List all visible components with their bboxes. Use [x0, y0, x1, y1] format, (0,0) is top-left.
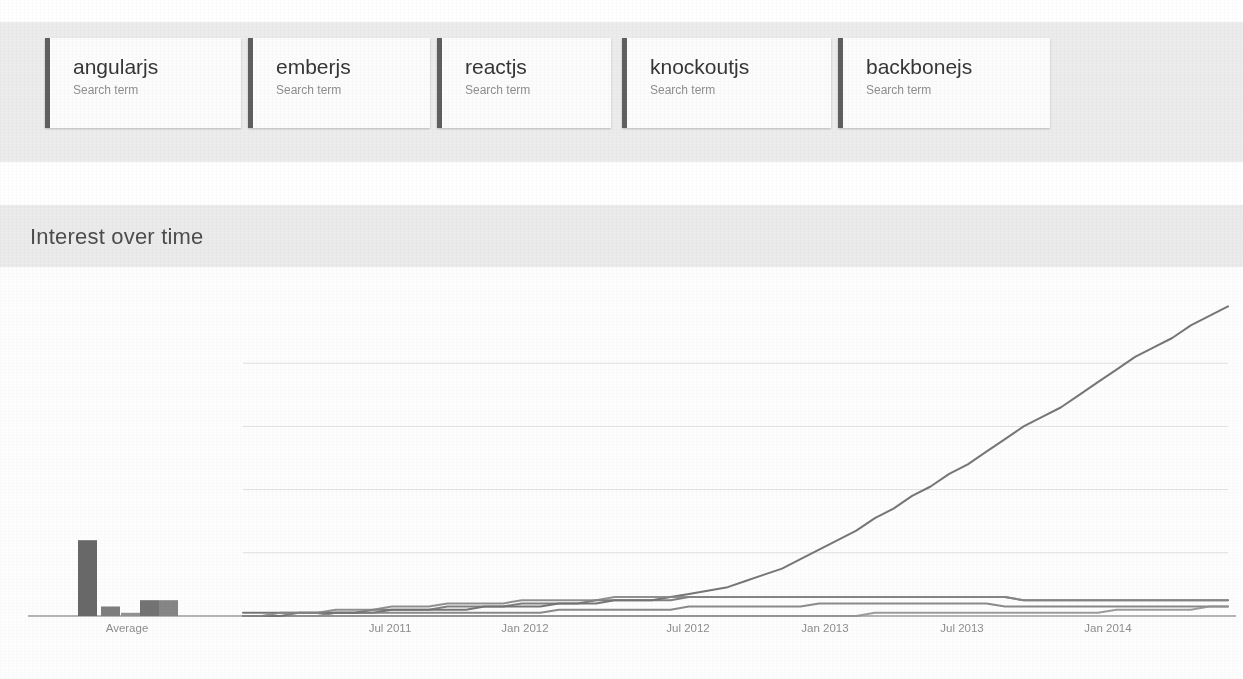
x-axis-tick-label: Jul 2013: [940, 622, 983, 634]
search-term-label: angularjs: [73, 54, 158, 79]
x-axis-tick-label: Jan 2014: [1084, 622, 1131, 634]
x-axis-tick-label: Jan 2013: [801, 622, 848, 634]
search-term-text: reactjsSearch term: [442, 38, 540, 99]
average-bar[interactable]: [121, 613, 140, 616]
chart-line-reactjs[interactable]: [243, 607, 1228, 617]
search-term-label: reactjs: [465, 54, 530, 79]
search-term-subtitle: Search term: [650, 82, 749, 99]
search-term-card[interactable]: reactjsSearch term: [437, 38, 611, 128]
search-term-label: knockoutjs: [650, 54, 749, 79]
search-term-card[interactable]: angularjsSearch term: [45, 38, 241, 128]
interest-over-time-chart[interactable]: [0, 267, 1243, 679]
x-axis-tick-label: Jul 2012: [666, 622, 709, 634]
search-term-card[interactable]: knockoutjsSearch term: [622, 38, 831, 128]
search-term-text: knockoutjsSearch term: [627, 38, 759, 99]
search-term-subtitle: Search term: [276, 82, 351, 99]
average-bar[interactable]: [159, 600, 178, 616]
chart-x-axis-labels: AverageJul 2011Jan 2012Jul 2012Jan 2013J…: [0, 622, 1243, 644]
search-term-label: emberjs: [276, 54, 351, 79]
section-title: Interest over time: [30, 224, 204, 250]
search-term-card[interactable]: backbonejsSearch term: [838, 38, 1050, 128]
search-term-subtitle: Search term: [465, 82, 530, 99]
chart-canvas[interactable]: [0, 267, 1243, 679]
scanned-page: of notes byand illustrationsDesign 1. Vi…: [0, 0, 1243, 679]
x-axis-tick-label: Jul 2011: [369, 622, 412, 634]
search-term-subtitle: Search term: [73, 82, 158, 99]
average-bar[interactable]: [140, 600, 159, 616]
average-bar[interactable]: [78, 540, 97, 616]
x-axis-tick-label: Average: [106, 622, 149, 634]
search-term-subtitle: Search term: [866, 82, 972, 99]
search-term-text: emberjsSearch term: [253, 38, 361, 99]
search-term-card[interactable]: emberjsSearch term: [248, 38, 430, 128]
average-bar[interactable]: [101, 607, 120, 617]
search-term-label: backbonejs: [866, 54, 972, 79]
x-axis-tick-label: Jan 2012: [501, 622, 548, 634]
search-term-text: angularjsSearch term: [50, 38, 168, 99]
chart-line-angularjs[interactable]: [243, 306, 1228, 612]
search-term-text: backbonejsSearch term: [843, 38, 982, 99]
